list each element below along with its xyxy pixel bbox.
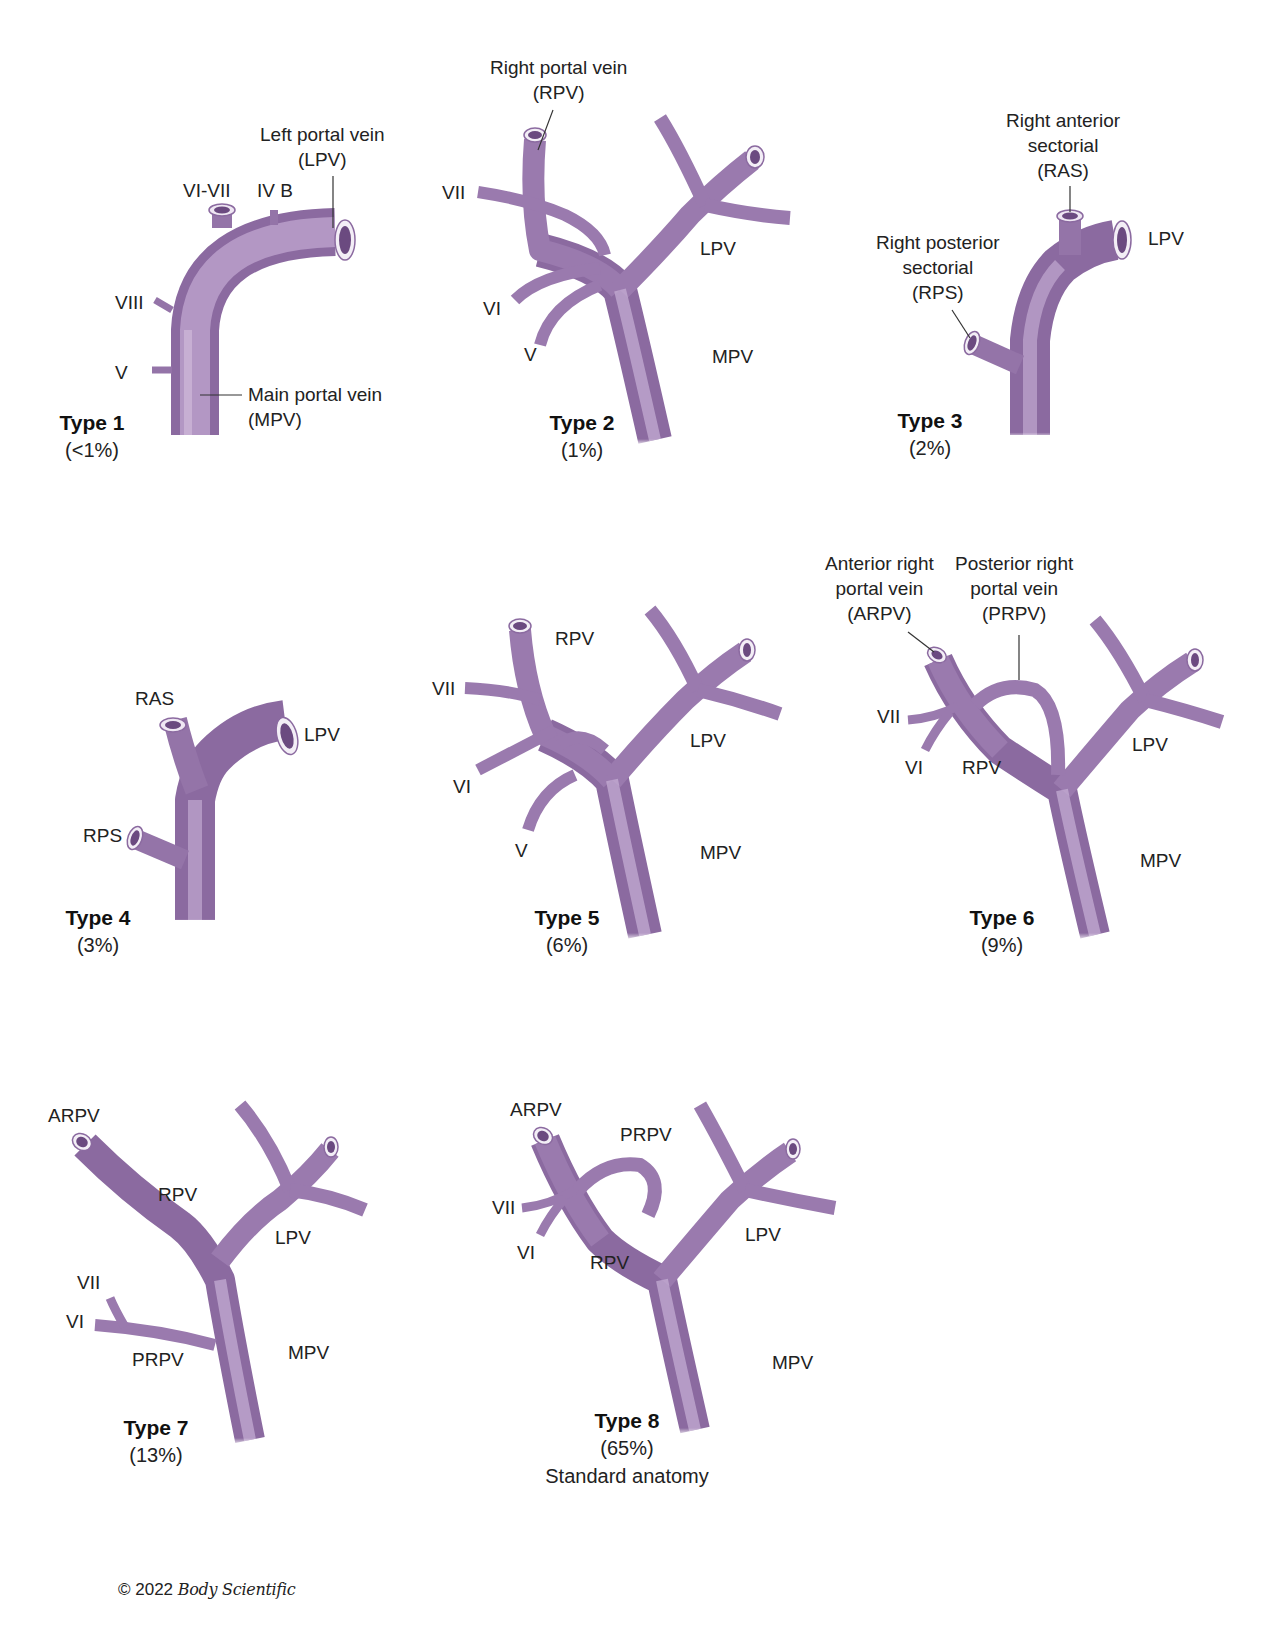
type7-vessel bbox=[69, 1105, 365, 1445]
label-rpv: RPV bbox=[555, 626, 594, 651]
label-arpv: ARPV bbox=[48, 1103, 100, 1128]
label-lpv: LPV bbox=[1148, 226, 1184, 251]
label-line: (RPV) bbox=[533, 82, 585, 103]
label-line: portal vein bbox=[970, 578, 1058, 599]
label-prpv: PRPV bbox=[620, 1122, 672, 1147]
label-line: Posterior right bbox=[955, 553, 1073, 574]
type-name: Type 5 bbox=[527, 905, 607, 931]
type-percent: (3%) bbox=[58, 931, 138, 959]
label-lpv: LPV bbox=[700, 236, 736, 261]
label-line: Right portal vein bbox=[490, 57, 627, 78]
label-line: (PRPV) bbox=[982, 603, 1046, 624]
label-prpv: PRPV bbox=[132, 1347, 184, 1372]
label-line: Main portal vein bbox=[248, 384, 382, 405]
label-arpv: Anterior right portal vein (ARPV) bbox=[825, 551, 934, 626]
type2-vessel bbox=[478, 110, 790, 445]
label-rps: Right posterior sectorial (RPS) bbox=[876, 230, 1000, 305]
type-percent: (6%) bbox=[527, 931, 607, 959]
portal-vein-variants-figure: Left portal vein (LPV) VI-VII IV B VIII … bbox=[0, 0, 1276, 1638]
label-line: (RAS) bbox=[1037, 160, 1089, 181]
label-segment-vi: VI bbox=[483, 296, 501, 321]
type-name: Type 4 bbox=[58, 905, 138, 931]
label-segment-vi-vii: VI-VII bbox=[183, 178, 231, 203]
type-name: Type 1 bbox=[52, 410, 132, 436]
label-mpv: MPV bbox=[700, 840, 741, 865]
copyright: © 2022 Body Scientific bbox=[118, 1580, 295, 1600]
label-mpv: MPV bbox=[712, 344, 753, 369]
label-line: sectorial bbox=[1028, 135, 1099, 156]
label-rpv: RPV bbox=[158, 1182, 197, 1207]
label-segment-vii: VII bbox=[492, 1195, 515, 1220]
label-segment-v: V bbox=[524, 342, 537, 367]
label-lpv: LPV bbox=[304, 722, 340, 747]
label-rpv: RPV bbox=[962, 755, 1001, 780]
label-rpv: RPV bbox=[590, 1250, 629, 1275]
label-line: Anterior right bbox=[825, 553, 934, 574]
label-segment-vii: VII bbox=[877, 704, 900, 729]
type-percent: (2%) bbox=[890, 434, 970, 462]
label-lpv: LPV bbox=[690, 728, 726, 753]
type-note: Standard anatomy bbox=[512, 1462, 742, 1490]
label-line: Right posterior bbox=[876, 232, 1000, 253]
type8-title: Type 8 (65%) Standard anatomy bbox=[512, 1408, 742, 1490]
type4-vessel bbox=[124, 715, 301, 925]
label-segment-vi: VI bbox=[66, 1309, 84, 1334]
label-segment-viii: VIII bbox=[115, 290, 144, 315]
type5-title: Type 5 (6%) bbox=[527, 905, 607, 959]
label-segment-vii: VII bbox=[77, 1270, 100, 1295]
type-percent: (9%) bbox=[962, 931, 1042, 959]
label-ras: RAS bbox=[135, 686, 174, 711]
type3-vessel bbox=[952, 186, 1131, 438]
type-percent: (1%) bbox=[542, 436, 622, 464]
label-lpv: LPV bbox=[745, 1222, 781, 1247]
type-name: Type 6 bbox=[962, 905, 1042, 931]
label-mpv: MPV bbox=[1140, 848, 1181, 873]
label-segment-vi: VI bbox=[453, 774, 471, 799]
brand-logo: Body Scientific bbox=[178, 1580, 296, 1599]
type-name: Type 7 bbox=[116, 1415, 196, 1441]
type1-title: Type 1 (<1%) bbox=[52, 410, 132, 464]
label-lpv: Left portal vein (LPV) bbox=[260, 122, 385, 172]
label-line: Right anterior bbox=[1006, 110, 1120, 131]
type-percent: (65%) bbox=[512, 1434, 742, 1462]
type-percent: (13%) bbox=[116, 1441, 196, 1469]
type5-vessel bbox=[465, 610, 780, 940]
type-name: Type 2 bbox=[542, 410, 622, 436]
type-name: Type 3 bbox=[890, 408, 970, 434]
label-line: Left portal vein bbox=[260, 124, 385, 145]
type7-title: Type 7 (13%) bbox=[116, 1415, 196, 1469]
label-line: (LPV) bbox=[298, 149, 347, 170]
label-segment-vi: VI bbox=[517, 1240, 535, 1265]
label-segment-v: V bbox=[515, 838, 528, 863]
type2-title: Type 2 (1%) bbox=[542, 410, 622, 464]
label-arpv: ARPV bbox=[510, 1097, 562, 1122]
label-rps: RPS bbox=[83, 823, 122, 848]
label-line: (MPV) bbox=[248, 409, 302, 430]
label-line: sectorial bbox=[902, 257, 973, 278]
type3-title: Type 3 (2%) bbox=[890, 408, 970, 462]
label-mpv: Main portal vein (MPV) bbox=[248, 382, 382, 432]
label-line: (RPS) bbox=[912, 282, 964, 303]
label-lpv: LPV bbox=[275, 1225, 311, 1250]
label-segment-vii: VII bbox=[442, 180, 465, 205]
label-mpv: MPV bbox=[288, 1340, 329, 1365]
type8-vessel bbox=[522, 1105, 835, 1435]
type6-title: Type 6 (9%) bbox=[962, 905, 1042, 959]
label-segment-vi: VI bbox=[905, 755, 923, 780]
label-rpv: Right portal vein (RPV) bbox=[490, 55, 627, 105]
label-segment-vii: VII bbox=[432, 676, 455, 701]
copyright-year: © 2022 bbox=[118, 1580, 173, 1599]
label-segment-v: V bbox=[115, 360, 128, 385]
label-mpv: MPV bbox=[772, 1350, 813, 1375]
label-line: (ARPV) bbox=[847, 603, 911, 624]
type4-title: Type 4 (3%) bbox=[58, 905, 138, 959]
type6-vessel bbox=[908, 620, 1222, 940]
label-lpv: LPV bbox=[1132, 732, 1168, 757]
label-segment-iv-b: IV B bbox=[257, 178, 293, 203]
label-line: portal vein bbox=[836, 578, 924, 599]
label-ras: Right anterior sectorial (RAS) bbox=[1006, 108, 1120, 183]
type-percent: (<1%) bbox=[52, 436, 132, 464]
type-name: Type 8 bbox=[512, 1408, 742, 1434]
vessel-illustrations bbox=[0, 0, 1276, 1638]
label-prpv: Posterior right portal vein (PRPV) bbox=[955, 551, 1073, 626]
